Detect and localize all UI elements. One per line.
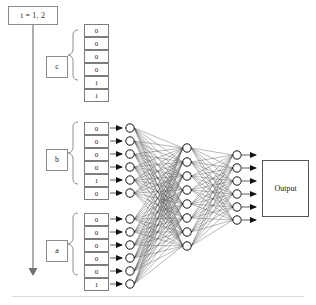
input-cell-b-0: 0 xyxy=(84,122,109,135)
input-cell-a-1: 0 xyxy=(84,226,109,239)
output-box: Output xyxy=(262,160,309,217)
input-block-label-b: b xyxy=(46,149,68,171)
input-cell-b-5: 0 xyxy=(84,187,109,200)
input-cell-a-5: 1 xyxy=(84,278,109,291)
input-cell-c-0: 0 xyxy=(84,24,109,37)
time-step-label: t = 1, 2 xyxy=(8,6,58,25)
input-cell-a-0: 0 xyxy=(84,213,109,226)
labels-layer: t = 1, 2 c b a 0 0 0 0 1 1 0 0 0 0 1 0 0… xyxy=(0,0,316,305)
input-cell-c-3: 0 xyxy=(84,63,109,76)
input-cell-a-4: 0 xyxy=(84,265,109,278)
input-cell-c-2: 0 xyxy=(84,50,109,63)
input-cell-b-4: 1 xyxy=(84,174,109,187)
input-cell-a-3: 0 xyxy=(84,252,109,265)
input-block-label-a: a xyxy=(46,240,68,262)
input-cell-a-2: 0 xyxy=(84,239,109,252)
input-cell-c-4: 1 xyxy=(84,76,109,89)
input-cell-b-1: 0 xyxy=(84,135,109,148)
input-cell-b-2: 0 xyxy=(84,148,109,161)
input-block-label-c: c xyxy=(46,56,68,78)
input-cell-c-5: 1 xyxy=(84,89,109,102)
input-cell-c-1: 0 xyxy=(84,37,109,50)
neural-network-diagram: t = 1, 2 c b a 0 0 0 0 1 1 0 0 0 0 1 0 0… xyxy=(0,0,316,305)
input-cell-b-3: 0 xyxy=(84,161,109,174)
bottom-divider xyxy=(12,296,304,297)
